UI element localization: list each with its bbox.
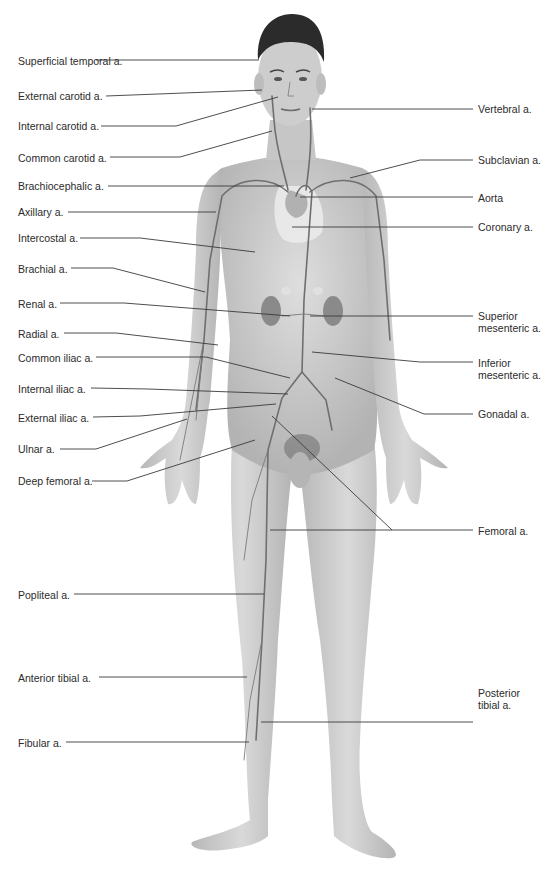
left-ear bbox=[316, 73, 326, 95]
label-subclavian: Subclavian a. bbox=[478, 154, 541, 166]
label-vertebral: Vertebral a. bbox=[478, 103, 532, 115]
label-aorta: Aorta bbox=[478, 192, 503, 204]
right-leg bbox=[191, 440, 292, 851]
label-superior-mesenteric: Superior mesenteric a. bbox=[478, 310, 541, 334]
neck bbox=[266, 120, 316, 160]
leader-line-common-carotid bbox=[110, 131, 272, 157]
label-renal: Renal a. bbox=[18, 298, 57, 310]
label-common-iliac: Common iliac a. bbox=[18, 352, 93, 364]
label-common-carotid: Common carotid a. bbox=[18, 152, 107, 164]
label-inferior-mesenteric: Inferior mesenteric a. bbox=[478, 357, 541, 381]
left-leg bbox=[300, 440, 396, 858]
label-external-carotid: External carotid a. bbox=[18, 90, 103, 102]
label-brachial: Brachial a. bbox=[18, 263, 68, 275]
leader-line-brachial bbox=[71, 268, 205, 292]
body-silhouette bbox=[140, 14, 448, 858]
label-femoral: Femoral a. bbox=[478, 525, 528, 537]
leader-line-external-carotid bbox=[106, 90, 262, 96]
label-coronary: Coronary a. bbox=[478, 221, 533, 233]
label-external-iliac: External iliac a. bbox=[18, 412, 89, 424]
label-internal-iliac: Internal iliac a. bbox=[18, 383, 86, 395]
label-fibular: Fibular a. bbox=[18, 737, 62, 749]
label-popliteal: Popliteal a. bbox=[18, 589, 70, 601]
label-internal-carotid: Internal carotid a. bbox=[18, 120, 99, 132]
left-adrenal bbox=[313, 287, 323, 295]
label-posterior-tibial: Posterior tibial a. bbox=[478, 687, 520, 711]
right-ear bbox=[254, 73, 264, 95]
label-superficial-temporal: Superficial temporal a. bbox=[18, 55, 122, 67]
genitals bbox=[289, 452, 311, 488]
label-brachiocephalic: Brachiocephalic a. bbox=[18, 180, 104, 192]
right-kidney bbox=[261, 296, 281, 326]
label-anterior-tibial: Anterior tibial a. bbox=[18, 672, 91, 684]
label-deep-femoral: Deep femoral a. bbox=[18, 475, 93, 487]
label-intercostal: Intercostal a. bbox=[18, 232, 78, 244]
right-adrenal bbox=[281, 287, 291, 295]
label-axillary: Axillary a. bbox=[18, 206, 64, 218]
leader-line-internal-carotid bbox=[101, 97, 278, 126]
label-ulnar: Ulnar a. bbox=[18, 443, 55, 455]
label-gonadal: Gonadal a. bbox=[478, 408, 529, 420]
left-kidney bbox=[323, 296, 343, 326]
label-radial: Radial a. bbox=[18, 328, 59, 340]
